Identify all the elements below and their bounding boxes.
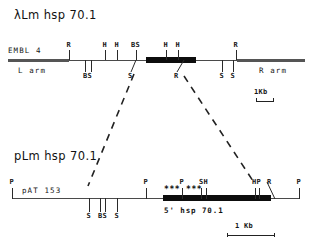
plasmid-tick-below-1a — [100, 198, 101, 212]
plasmid-site-above-0: P — [10, 178, 14, 186]
lambda-tick-above-3 — [136, 50, 137, 60]
plasmid-panel-title: pLm hsp 70.1 — [14, 149, 97, 163]
connector-dashed-lines — [0, 72, 313, 188]
plasmid-scale-label: 1 Kb — [235, 222, 253, 230]
lambda-tick-below-0b — [91, 60, 92, 72]
lambda-right-arm — [237, 59, 305, 62]
plasmid-tick-above-3b — [206, 188, 207, 199]
lambda-site-above-1: H — [103, 41, 107, 49]
plasmid-tick-above-4b — [259, 188, 260, 199]
plasmid-tick-above-4a — [255, 188, 256, 199]
plasmid-insert-caption: 5' hsp 70.1 — [164, 206, 224, 215]
plasmid-star-group-1: *** — [186, 185, 202, 194]
plasmid-site-below-2: S — [115, 212, 119, 220]
lambda-tick-below-4 — [233, 60, 234, 72]
lambda-insert-box — [146, 57, 196, 63]
lambda-tick-above-2 — [117, 50, 118, 60]
plasmid-site-above-5: R — [267, 178, 271, 186]
plasmid-site-below-1: BS — [98, 212, 107, 220]
plasmid-star-group-0: *** — [164, 185, 180, 194]
plasmid-site-above-6: P — [297, 178, 301, 186]
plasmid-site-above-3: SH — [199, 178, 208, 186]
plasmid-site-above-4: HP — [252, 178, 261, 186]
lambda-site-above-5: H — [176, 41, 180, 49]
lambda-site-above-2: H — [115, 41, 119, 49]
plasmid-right-endcap — [299, 188, 300, 199]
lambda-site-above-4: H — [164, 41, 168, 49]
figure-canvas: λLm hsp 70.1 EMBL 4 L arm R arm R H H BS… — [0, 0, 313, 249]
lambda-tick-below-3 — [222, 60, 223, 72]
plasmid-tick-above-1 — [146, 188, 147, 199]
plasmid-tick-above-3a — [201, 188, 202, 199]
plasmid-scale-bar — [227, 235, 275, 236]
plasmid-tick-above-2 — [182, 188, 183, 199]
lambda-tick-above-6 — [236, 50, 237, 60]
plasmid-tick-below-0 — [89, 198, 90, 212]
plasmid-site-below-0: S — [87, 212, 91, 220]
plasmid-tick-below-2 — [117, 198, 118, 212]
lambda-tick-above-4 — [166, 50, 167, 60]
lambda-vector-label: EMBL 4 — [8, 46, 42, 55]
plasmid-tick-below-1b — [105, 198, 106, 212]
lambda-tick-below-0a — [85, 60, 86, 72]
lambda-left-arm — [8, 59, 69, 62]
plasmid-left-endcap — [12, 188, 13, 199]
plasmid-vector-label: pAT 153 — [22, 186, 61, 195]
lambda-tick-above-0 — [69, 50, 70, 60]
plasmid-site-above-1: P — [144, 178, 148, 186]
lambda-site-above-3: BS — [131, 41, 140, 49]
lambda-site-above-6: R — [234, 41, 238, 49]
lambda-panel-title: λLm hsp 70.1 — [14, 8, 97, 22]
lambda-tick-above-5 — [178, 50, 179, 60]
lambda-tick-above-1 — [105, 50, 106, 60]
plasmid-site-above-2: P — [180, 178, 184, 186]
lambda-site-above-0: R — [67, 41, 71, 49]
